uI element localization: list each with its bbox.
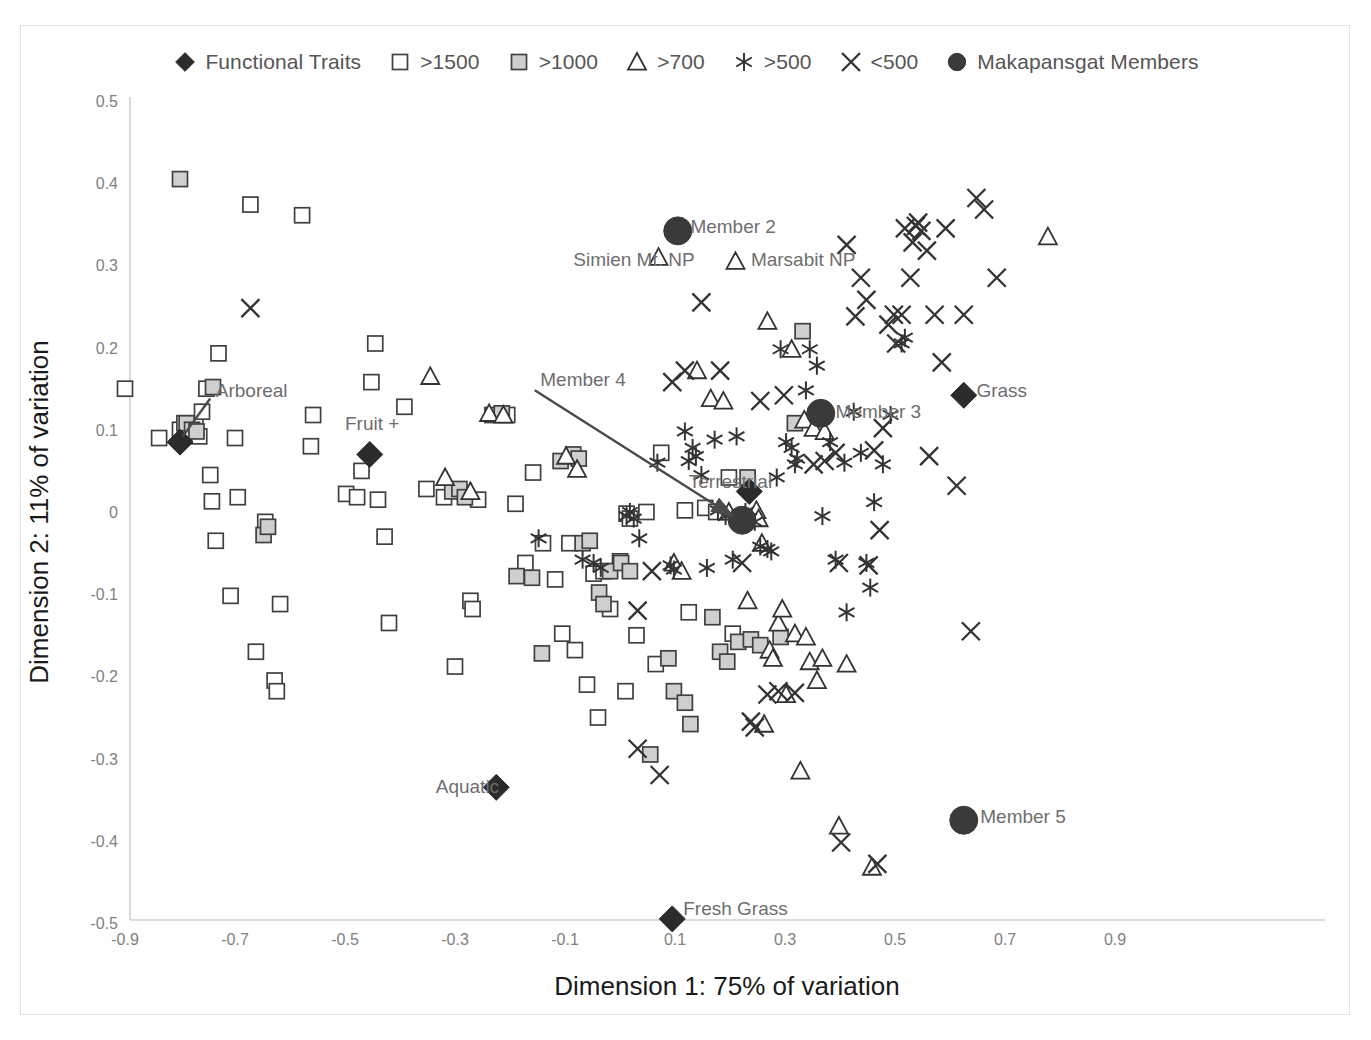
marker-x [857,291,875,309]
marker-x [692,293,710,311]
marker-square-open [354,463,369,478]
marker-circle [728,506,756,534]
series--500 [241,189,1005,873]
x-axis-tick-label: -0.3 [441,931,469,948]
marker-asterisk [809,357,825,375]
y-axis-tick-label: 0.5 [96,93,118,110]
x-axis-tick-label: 0.9 [1104,931,1126,948]
marker-square-open [419,481,434,496]
marker-x [651,766,669,784]
marker-triangle [808,672,826,689]
annotation-label: Member 2 [690,216,776,237]
marker-square-gray [720,654,735,669]
marker-square-open [508,496,523,511]
series--700 [421,228,1057,875]
marker-asterisk [839,603,855,621]
marker-x [962,622,980,640]
marker-square-open [371,492,386,507]
marker-square-open [567,643,582,658]
marker-square-open [548,572,563,587]
marker-circle [950,806,978,834]
marker-square-gray [705,610,720,625]
annotation-label: Member 3 [836,401,922,422]
marker-square-gray [173,172,188,187]
x-axis-tick-label: 0.7 [994,931,1016,948]
marker-circle [807,399,835,427]
marker-triangle [436,468,454,485]
marker-asterisk [866,493,882,511]
marker-square-open [269,684,284,699]
marker-square-open [230,490,245,505]
marker-square-open [303,439,318,454]
marker-x [832,833,850,851]
marker-square-open [448,659,463,674]
marker-square-open [382,615,397,630]
x-axis-tick-label: -0.9 [111,931,139,948]
marker-asterisk [862,579,878,597]
marker-asterisk [631,529,647,547]
marker-triangle [421,367,439,384]
annotation-label: Arboreal [216,380,288,401]
marker-square-gray [643,747,658,762]
marker-square-open [368,336,383,351]
marker-square-open [211,346,226,361]
y-axis-tick-label: 0 [109,504,118,521]
marker-square-open [681,605,696,620]
marker-x [241,299,259,317]
marker-square-open [526,465,541,480]
y-axis-tick-label: -0.2 [90,668,118,685]
marker-square-open [580,677,595,692]
marker-square-open [306,408,321,423]
y-axis-title: Dimension 2: 11% of variation [24,340,54,683]
marker-square-open [118,381,133,396]
marker-x [988,269,1006,287]
marker-square-gray [661,651,676,666]
scatter-plot-svg[interactable]: 0.50.40.30.20.10-0.1-0.2-0.3-0.4-0.5-0.9… [0,0,1371,1040]
marker-diamond [951,382,977,408]
marker-x [733,554,751,572]
y-axis-tick-label: -0.1 [90,586,118,603]
marker-asterisk [815,507,831,525]
marker-triangle [830,817,848,834]
marker-triangle [1039,228,1057,245]
marker-x [751,392,769,410]
annotation-label: Member 5 [980,806,1066,827]
marker-asterisk [677,422,693,440]
marker-x [852,269,870,287]
y-axis-tick-label: 0.4 [96,175,118,192]
marker-square-open [208,533,223,548]
marker-square-open [639,505,654,520]
annotation-label: Member 4 [540,369,626,390]
y-axis-tick-label: 0.1 [96,422,118,439]
marker-square-gray [525,570,540,585]
marker-x [901,269,919,287]
x-axis-tick-label: 0.1 [664,931,686,948]
marker-square-open [591,710,606,725]
data-points-layer [118,172,1057,932]
annotation-label: Aquatic [436,776,499,797]
marker-x [629,602,647,620]
marker-x [846,307,864,325]
marker-x [643,562,661,580]
marker-square-gray [795,324,810,339]
marker-square-gray [534,646,549,661]
marker-asterisk [802,340,818,358]
marker-triangle [783,340,801,357]
marker-square-open [377,529,392,544]
marker-x [975,201,993,219]
annotation-label: Simien Mt. NP [573,249,694,270]
marker-square-gray [582,533,597,548]
marker-asterisk [798,381,814,399]
marker-square-open [555,626,570,641]
marker-x [871,521,889,539]
marker-circle [664,217,692,245]
y-axis-tick-label: 0.2 [96,340,118,357]
marker-x [775,386,793,404]
x-axis-tick-label: 0.5 [884,931,906,948]
marker-triangle [863,858,881,875]
marker-x [967,189,985,207]
marker-diamond [659,906,685,932]
marker-square-open [677,503,692,518]
marker-x [827,444,845,462]
marker-square-open [364,375,379,390]
